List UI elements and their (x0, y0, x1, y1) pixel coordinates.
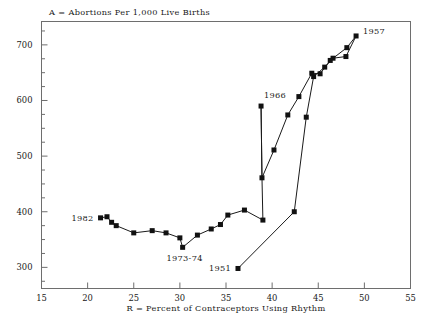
data-point-marker (309, 71, 314, 76)
y-tick-label: 700 (17, 40, 33, 50)
data-point-marker (98, 215, 103, 220)
scatter-line-chart: 300400500600700 152025303540455055 19821… (0, 0, 425, 324)
annotation-label: 1951 (209, 263, 231, 273)
data-point-marker (322, 65, 327, 70)
x-tick-label: 35 (221, 293, 232, 303)
data-point-marker (285, 112, 290, 117)
data-point-marker (218, 222, 223, 227)
data-point-marker (104, 214, 109, 219)
data-point-marker (296, 94, 301, 99)
x-tick-label: 15 (36, 293, 47, 303)
x-tick-label: 20 (82, 293, 93, 303)
annotation-label: 1957 (363, 26, 385, 36)
x-tick-label: 30 (175, 293, 186, 303)
data-point-marker (343, 54, 348, 59)
data-point-marker (180, 245, 185, 250)
chart-container: 300400500600700 152025303540455055 19821… (0, 0, 425, 324)
data-point-marker (260, 218, 265, 223)
x-tick-label: 55 (405, 293, 416, 303)
x-tick-label: 45 (313, 293, 324, 303)
data-point-marker (344, 45, 349, 50)
data-point-marker (354, 33, 359, 38)
annotation-label: 1982 (71, 213, 93, 223)
data-point-marker (150, 228, 155, 233)
data-point-marker (209, 226, 214, 231)
x-tick-label: 25 (128, 293, 139, 303)
data-point-marker (292, 209, 297, 214)
data-point-marker (259, 175, 264, 180)
annotation-label: 1973-74 (167, 253, 203, 263)
y-tick-label: 300 (17, 262, 33, 272)
data-point-marker (131, 230, 136, 235)
data-point-marker (114, 223, 119, 228)
x-axis-title: R = Percent of Contraceptors Using Rhyth… (126, 303, 325, 313)
y-tick-label: 600 (17, 95, 33, 105)
data-point-marker (328, 58, 333, 63)
data-point-marker (304, 115, 309, 120)
data-point-marker (235, 266, 240, 271)
data-point-marker (318, 71, 323, 76)
data-point-marker (109, 220, 114, 225)
x-tick-label: 50 (359, 293, 370, 303)
data-point-marker (177, 235, 182, 240)
data-point-marker (271, 147, 276, 152)
data-point-marker (195, 233, 200, 238)
data-point-marker (242, 208, 247, 213)
data-point-marker (259, 104, 264, 109)
chart-title: A = Abortions Per 1,000 Live Births (48, 7, 210, 17)
data-point-marker (164, 230, 169, 235)
x-tick-label: 40 (267, 293, 278, 303)
chart-background (0, 0, 425, 324)
data-point-marker (225, 213, 230, 218)
y-tick-label: 400 (17, 207, 33, 217)
annotation-label: 1966 (264, 90, 286, 100)
y-tick-label: 500 (17, 151, 33, 161)
